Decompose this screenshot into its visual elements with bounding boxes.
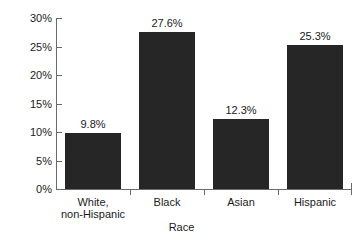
plot-area — [56, 18, 352, 190]
y-tick-label: 5% — [6, 156, 52, 167]
x-category-label: Hispanic — [278, 196, 352, 208]
y-tick-25 — [57, 47, 62, 48]
bar-value-label: 12.3% — [201, 105, 281, 116]
bar-value-label: 9.8% — [53, 119, 133, 130]
y-tick-15 — [57, 104, 62, 105]
x-tick — [130, 190, 131, 195]
x-axis-right-stub — [351, 183, 352, 190]
y-tick-label: 30% — [6, 13, 52, 24]
bar-value-label: 27.6% — [127, 18, 207, 29]
x-tick — [351, 190, 352, 195]
y-tick-10 — [57, 132, 62, 133]
y-tick-label: 25% — [6, 42, 52, 53]
x-tick — [204, 190, 205, 195]
y-tick-label: 20% — [6, 70, 52, 81]
x-category-label: Asian — [204, 196, 278, 208]
bar — [139, 32, 195, 189]
y-tick-20 — [57, 75, 62, 76]
x-category-label: Black — [130, 196, 204, 208]
bar — [65, 133, 121, 189]
bar — [213, 119, 269, 189]
y-tick-0 — [57, 189, 62, 190]
bar-chart-figure: Percent 0%5%10%15%20%25%30% White, non-H… — [0, 0, 363, 244]
x-tick — [278, 190, 279, 195]
x-axis-title: Race — [0, 222, 363, 233]
bar-value-label: 25.3% — [275, 31, 355, 42]
y-tick-30 — [57, 18, 62, 19]
x-category-label: White, non-Hispanic — [56, 196, 130, 220]
bar — [287, 45, 343, 189]
y-tick-label: 0% — [6, 184, 52, 195]
y-tick-label: 10% — [6, 127, 52, 138]
y-tick-label: 15% — [6, 99, 52, 110]
y-tick-5 — [57, 161, 62, 162]
